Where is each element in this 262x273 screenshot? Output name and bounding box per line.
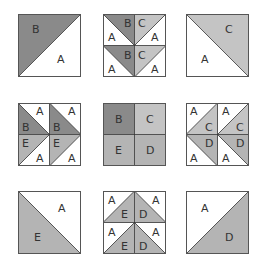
label-b: B [115, 113, 123, 126]
label-e: E [22, 137, 29, 150]
label-e: E [121, 208, 128, 221]
label-a: A [151, 63, 159, 76]
tile-r3c3-hst-a-d: A D [186, 191, 249, 254]
label-e: E [115, 144, 122, 157]
label-b: B [53, 121, 61, 134]
tile-r3c2-flying-geese-ed: A E D A A E D A [103, 191, 166, 254]
label-a: A [152, 194, 160, 207]
tile-r1c1-hst-b-a: B A [18, 14, 81, 77]
label-e: E [34, 231, 41, 244]
label-c: C [236, 121, 244, 134]
label-d: D [225, 231, 233, 244]
label-a: A [151, 31, 159, 44]
label-a: A [68, 105, 76, 118]
label-b: B [124, 49, 132, 62]
label-e: E [121, 240, 128, 253]
label-c: C [138, 49, 146, 62]
label-a: A [201, 202, 209, 215]
label-a: A [108, 194, 116, 207]
tile-r2c2-four-patch: B C E D [103, 103, 166, 166]
label-a: A [201, 53, 209, 66]
label-e: E [53, 137, 60, 150]
label-a: A [57, 53, 65, 66]
label-d: D [146, 144, 154, 157]
tile-r2c1-flying-geese-be: A B E A A B E A [18, 103, 81, 166]
label-a: A [222, 105, 230, 118]
tile-r1c3-hst-c-a: C A [186, 14, 249, 77]
label-a: A [108, 63, 116, 76]
label-b: B [32, 23, 40, 36]
label-a: A [190, 152, 198, 165]
label-a: A [108, 226, 116, 239]
label-c: C [225, 23, 233, 36]
label-c: C [138, 17, 146, 30]
label-a: A [222, 152, 230, 165]
label-a: A [36, 105, 44, 118]
label-d: D [139, 208, 147, 221]
tile-r3c1-hst-a-e: A E [18, 191, 81, 254]
label-c: C [146, 113, 154, 126]
label-a: A [68, 152, 76, 165]
tile-r2c3-flying-geese-cd: A C D A A C D A [186, 103, 249, 166]
label-a: A [190, 105, 198, 118]
label-b: B [22, 121, 30, 134]
label-a: A [152, 226, 160, 239]
tile-r1c2-flying-geese-bc: B C A A B C A A [103, 14, 166, 77]
label-a: A [108, 31, 116, 44]
label-c: C [205, 121, 213, 134]
label-d: D [205, 137, 213, 150]
label-d: D [236, 137, 244, 150]
label-d: D [139, 240, 147, 253]
label-a: A [58, 202, 66, 215]
label-a: A [36, 152, 44, 165]
label-b: B [124, 17, 132, 30]
